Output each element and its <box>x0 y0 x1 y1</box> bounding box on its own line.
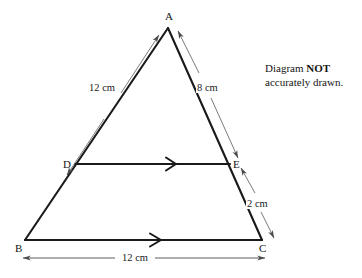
note-line-1: Diagram NOT <box>265 62 343 76</box>
dimension-ae-lower <box>211 98 238 158</box>
vertex-label-c: C <box>259 243 266 254</box>
vertex-label-e: E <box>233 159 240 170</box>
note-line-1-prefix: Diagram <box>265 62 306 74</box>
note-line-2: accurately drawn. <box>265 76 343 90</box>
vertex-label-b: B <box>15 243 22 254</box>
diagram-canvas <box>0 0 362 278</box>
dimension-ae <box>178 31 238 158</box>
measurement-label-ec: 2 cm <box>246 198 269 209</box>
dimension-ae-upper <box>178 31 199 73</box>
measurement-label-ae: 8 cm <box>196 82 219 93</box>
vertex-label-a: A <box>165 11 173 22</box>
geometry-diagram: A B C D E 12 cm 8 cm 2 cm 12 cm Diagram … <box>0 0 362 278</box>
dimension-ad <box>67 35 159 175</box>
segment-ab <box>25 28 168 240</box>
note-emphasis-not: NOT <box>306 62 330 74</box>
vertex-label-d: D <box>63 159 71 170</box>
not-to-scale-note: Diagram NOT accurately drawn. <box>265 62 343 89</box>
dimension-ec-upper <box>241 168 255 193</box>
triangle-outline <box>25 28 262 240</box>
measurement-label-bc: 12 cm <box>121 252 149 263</box>
measurement-label-ad: 12 cm <box>88 82 116 93</box>
dimension-ad-upper <box>121 35 159 93</box>
dimension-ec-lower <box>261 212 274 238</box>
dimension-ad-lower <box>67 119 104 175</box>
